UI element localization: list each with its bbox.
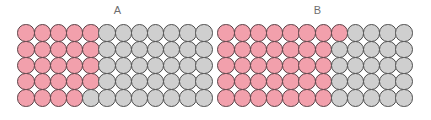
circle-cell (331, 41, 347, 57)
circle-cell (283, 25, 299, 41)
empty-circle-icon (179, 41, 196, 58)
circle-cell (267, 90, 283, 106)
circle-cell (315, 25, 331, 41)
filled-circle-icon (331, 24, 348, 41)
circle-cell (234, 57, 250, 73)
filled-circle-icon (250, 57, 267, 74)
circle-cell (34, 57, 50, 73)
circle-cell (67, 90, 83, 106)
filled-circle-icon (298, 24, 315, 41)
circle-cell (267, 41, 283, 57)
empty-circle-icon (147, 24, 164, 41)
empty-circle-icon (115, 24, 132, 41)
filled-circle-icon (282, 24, 299, 41)
filled-circle-icon (282, 41, 299, 58)
circle-cell (283, 41, 299, 57)
empty-circle-icon (98, 57, 115, 74)
circle-cell (380, 41, 396, 57)
filled-circle-icon (282, 57, 299, 74)
circle-cell (67, 74, 83, 90)
circle-cell (83, 74, 99, 90)
circle-cell (67, 57, 83, 73)
circle-cell (299, 57, 315, 73)
empty-circle-icon (147, 41, 164, 58)
empty-circle-icon (331, 41, 348, 58)
circle-cell (18, 90, 34, 106)
filled-circle-icon (50, 57, 67, 74)
circle-cell (218, 25, 234, 41)
circle-cell (164, 25, 180, 41)
circle-cell (331, 25, 347, 41)
circle-cell (396, 90, 412, 106)
circle-row (18, 90, 212, 106)
filled-circle-icon (82, 24, 99, 41)
circle-row (218, 74, 412, 90)
circle-cell (299, 41, 315, 57)
circle-cell (380, 74, 396, 90)
circle-cell (234, 90, 250, 106)
empty-circle-icon (131, 41, 148, 58)
empty-circle-icon (115, 41, 132, 58)
filled-circle-icon (250, 89, 267, 106)
empty-circle-icon (163, 57, 180, 74)
empty-circle-icon (115, 57, 132, 74)
circle-cell (164, 90, 180, 106)
circle-cell (380, 90, 396, 106)
circle-row (18, 74, 212, 90)
filled-circle-icon (315, 57, 332, 74)
empty-circle-icon (179, 73, 196, 90)
filled-circle-icon (217, 73, 234, 90)
circle-cell (34, 25, 50, 41)
circle-cell (115, 90, 131, 106)
empty-circle-icon (195, 24, 212, 41)
circle-cell (50, 57, 66, 73)
filled-circle-icon (34, 57, 51, 74)
filled-circle-icon (217, 57, 234, 74)
circle-cell (364, 74, 380, 90)
circle-cell (148, 25, 164, 41)
filled-circle-icon (17, 73, 34, 90)
empty-circle-icon (331, 89, 348, 106)
filled-circle-icon (298, 57, 315, 74)
empty-circle-icon (163, 73, 180, 90)
circle-cell (180, 41, 196, 57)
circle-row (218, 90, 412, 106)
circle-cell (283, 90, 299, 106)
empty-circle-icon (115, 73, 132, 90)
empty-circle-icon (195, 57, 212, 74)
filled-circle-icon (315, 89, 332, 106)
filled-circle-icon (217, 24, 234, 41)
circle-cell (164, 74, 180, 90)
empty-circle-icon (147, 57, 164, 74)
empty-circle-icon (347, 24, 364, 41)
circle-cell (196, 74, 212, 90)
circle-cell (218, 41, 234, 57)
filled-circle-icon (234, 73, 251, 90)
circle-cell (267, 57, 283, 73)
circle-cell (315, 90, 331, 106)
filled-circle-icon (50, 24, 67, 41)
circle-row (218, 57, 412, 73)
circle-cell (67, 41, 83, 57)
circle-cell (83, 90, 99, 106)
circle-cell (180, 57, 196, 73)
empty-circle-icon (82, 89, 99, 106)
empty-circle-icon (395, 41, 412, 58)
empty-circle-icon (98, 73, 115, 90)
circle-cell (99, 25, 115, 41)
filled-circle-icon (266, 24, 283, 41)
empty-circle-icon (131, 24, 148, 41)
circle-cell (148, 41, 164, 57)
circle-cell (148, 57, 164, 73)
empty-circle-icon (98, 24, 115, 41)
empty-circle-icon (163, 41, 180, 58)
circle-cell (396, 74, 412, 90)
filled-circle-icon (298, 73, 315, 90)
empty-circle-icon (195, 89, 212, 106)
circle-cell (18, 57, 34, 73)
empty-circle-icon (147, 89, 164, 106)
empty-circle-icon (147, 73, 164, 90)
circle-cell (131, 57, 147, 73)
filled-circle-icon (266, 57, 283, 74)
empty-circle-icon (195, 41, 212, 58)
